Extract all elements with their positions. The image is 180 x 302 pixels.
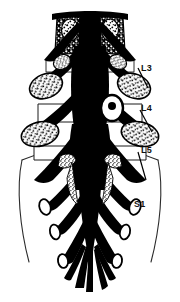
spine-illustration xyxy=(0,0,180,302)
label-l5: L5 xyxy=(141,146,152,155)
label-l3: L3 xyxy=(141,64,152,73)
anatomical-figure: L3 L4 L5 S1 xyxy=(0,0,180,302)
label-l4: L4 xyxy=(141,104,152,113)
label-s1: S1 xyxy=(134,200,146,209)
